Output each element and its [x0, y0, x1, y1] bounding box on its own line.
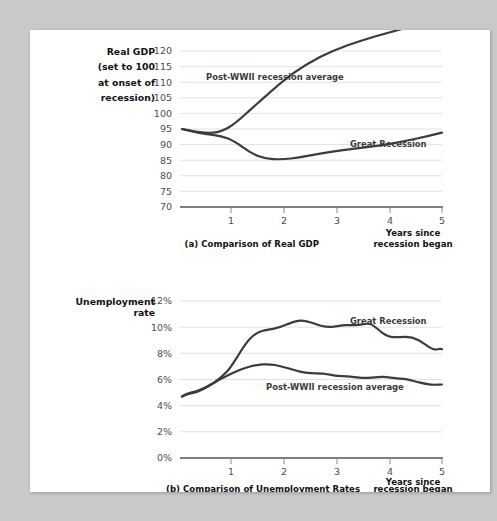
unemp-label-great-recession: Great Recession: [350, 316, 427, 326]
gdp-caption: (a) Comparison of Real GDP: [185, 239, 319, 249]
unemp-caption: (b) Comparison of Unemployment Rates: [166, 484, 360, 493]
unemp-xtick: 4: [387, 466, 393, 477]
unemp-y-tick-labels: 12% 10% 8% 6% 4% 2% 0%: [151, 295, 172, 463]
gdp-x-axis-title-line: recession began: [373, 239, 452, 249]
gdp-ytick: 95: [160, 123, 172, 134]
unemp-xtick: 2: [281, 466, 287, 477]
unemp-ytick: 6%: [157, 374, 172, 385]
unemp-ytick: 0%: [157, 452, 172, 463]
gdp-x-axis-title-line: Years since: [385, 228, 441, 238]
gdp-ytick: 70: [160, 201, 172, 212]
figure-card: 120 115 110 105 100 95 90 85 80 75 70 Re…: [30, 30, 490, 492]
gdp-ytick: 75: [160, 186, 172, 197]
unemp-ytick: 10%: [151, 322, 172, 333]
unemp-x-tick-labels: 1 2 3 4 5: [228, 466, 445, 477]
unemp-xtick: 5: [439, 466, 445, 477]
gdp-ytick: 90: [160, 139, 172, 150]
gdp-y-axis-title: Real GDP (set to 100 at onset of recessi…: [98, 46, 156, 104]
gdp-xtick: 4: [387, 215, 393, 226]
unemp-y-axis-title-line: Unemployment: [75, 296, 155, 307]
unemp-y-axis-title-line: rate: [133, 307, 155, 318]
gdp-x-tickmarks: [231, 207, 442, 213]
unemp-y-axis-title: Unemployment rate: [75, 296, 155, 319]
gdp-y-axis-title-line: Real GDP: [107, 46, 156, 57]
unemp-ytick: 4%: [157, 400, 172, 411]
gdp-xtick: 5: [439, 215, 445, 226]
gdp-y-axis-title-line: at onset of: [98, 77, 156, 88]
gdp-xtick: 1: [228, 215, 234, 226]
unemp-x-axis-title-line: recession began: [373, 484, 452, 493]
gdp-ytick: 85: [160, 155, 172, 166]
gdp-ytick: 110: [154, 77, 172, 88]
unemp-xtick: 1: [228, 466, 234, 477]
unemployment-chart: 12% 10% 8% 6% 4% 2% 0% Unemployment rate…: [30, 260, 490, 492]
panel-real-gdp: 120 115 110 105 100 95 90 85 80 75 70 Re…: [30, 30, 490, 260]
gdp-ytick: 120: [154, 45, 172, 56]
gdp-ytick: 105: [154, 92, 172, 103]
gdp-ytick: 115: [154, 61, 172, 72]
gdp-x-tick-labels: 1 2 3 4 5: [228, 215, 445, 226]
real-gdp-chart: 120 115 110 105 100 95 90 85 80 75 70 Re…: [30, 30, 490, 260]
unemp-x-tickmarks: [231, 458, 442, 464]
gdp-xtick: 3: [334, 215, 340, 226]
unemp-ytick: 2%: [157, 426, 172, 437]
gdp-y-tick-labels: 120 115 110 105 100 95 90 85 80 75 70: [154, 45, 172, 212]
gdp-x-axis-title: Years since recession began: [373, 228, 452, 249]
gdp-xtick: 2: [281, 215, 287, 226]
gdp-ytick: 80: [160, 170, 172, 181]
unemp-ytick: 8%: [157, 348, 172, 359]
gdp-label-postwwii: Post-WWII recession average: [206, 72, 344, 82]
panel-unemployment: 12% 10% 8% 6% 4% 2% 0% Unemployment rate…: [30, 260, 490, 492]
gdp-y-axis-title-line: recession): [101, 92, 155, 103]
gdp-y-axis-title-line: (set to 100: [98, 61, 156, 72]
unemp-x-axis-title: Years since recession began: [373, 477, 452, 492]
unemp-label-postwwii: Post-WWII recession average: [266, 382, 404, 392]
gdp-ytick: 100: [154, 108, 172, 119]
gdp-label-great-recession: Great Recession: [350, 139, 427, 149]
unemp-xtick: 3: [334, 466, 340, 477]
